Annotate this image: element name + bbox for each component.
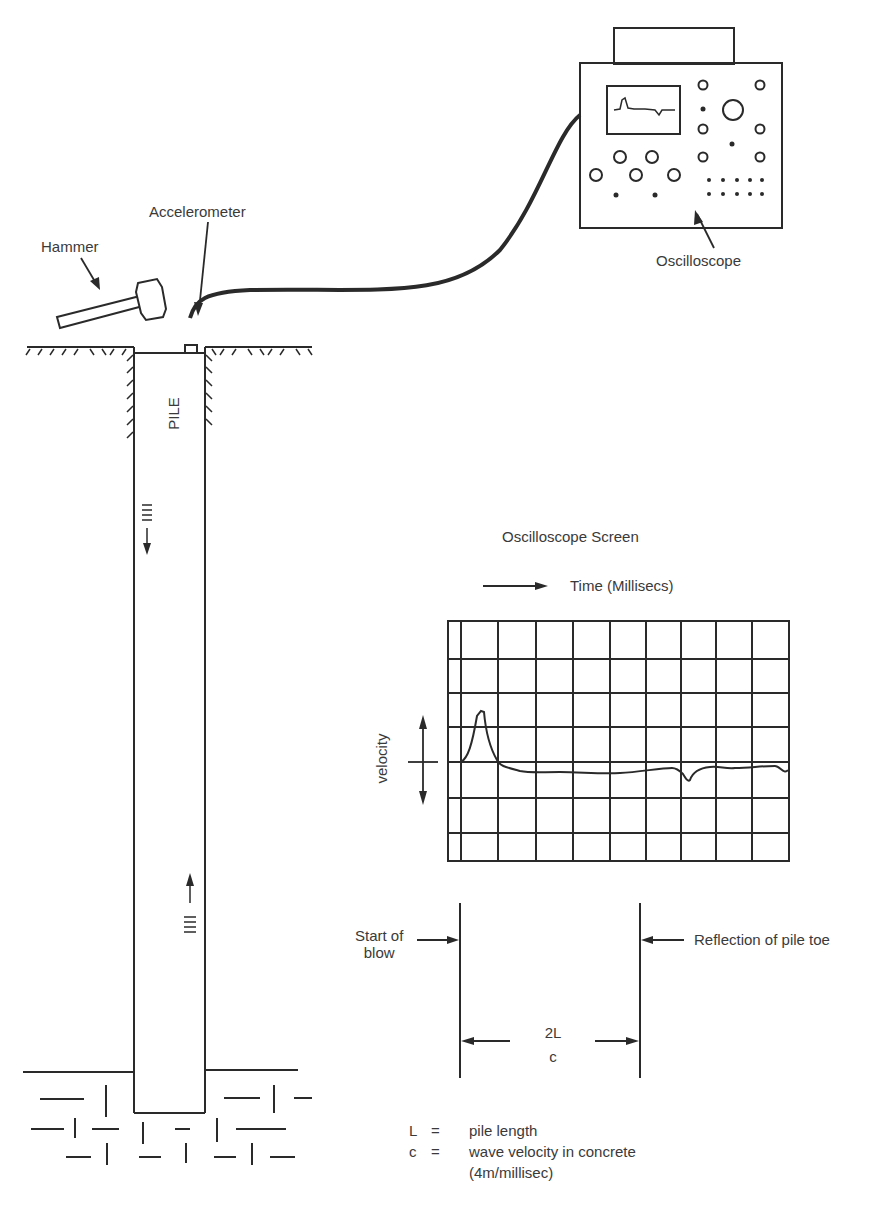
legend-row: c = wave velocity in concrete: [409, 1141, 636, 1162]
oscilloscope-label: Oscilloscope: [656, 252, 741, 269]
oscilloscope-screen-grid: [448, 621, 789, 861]
legend-row: (4m/millisec): [409, 1162, 636, 1183]
up-arrow-icon: [184, 873, 196, 932]
velocity-axis-label: velocity: [373, 733, 390, 783]
hammer-icon: [57, 279, 166, 328]
legend-row: L = pile length: [409, 1120, 636, 1141]
pile-label: PILE: [165, 397, 182, 430]
down-arrow-icon: [142, 505, 152, 555]
reflection-label: Reflection of pile toe: [694, 931, 830, 948]
pile-integrity-diagram: [0, 0, 881, 1210]
accelerometer-label: Accelerometer: [149, 203, 246, 220]
velocity-trace: [461, 711, 788, 781]
oscilloscope-icon: [580, 28, 782, 228]
pile: [134, 347, 205, 1113]
start-of-blow-label: Start of blow: [355, 927, 403, 962]
time-axis-label: Time (Millisecs): [570, 577, 674, 594]
legend: L = pile length c = wave velocity in con…: [409, 1120, 636, 1183]
accelerometer-icon: [185, 345, 197, 353]
hammer-label: Hammer: [41, 238, 99, 255]
two-l-over-c-fraction: 2L c: [528, 1024, 578, 1065]
screen-title: Oscilloscope Screen: [502, 528, 639, 545]
